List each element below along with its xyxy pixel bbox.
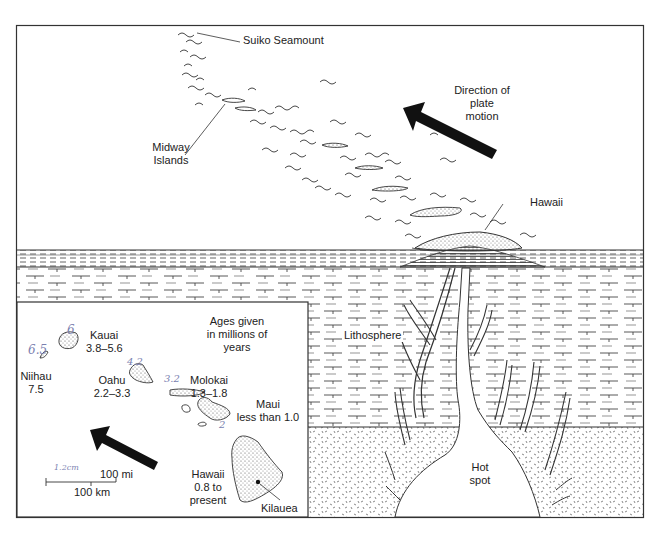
handwritten-scale-note: 1.2cm [54, 463, 79, 472]
hawaiian-hotspot-diagram: Suiko Seamount Midway Islands Direction … [0, 0, 661, 535]
label-kilauea: Kilauea [261, 502, 298, 515]
ocean-layer [17, 250, 643, 267]
kilauea-marker [256, 480, 260, 484]
diagram-canvas [0, 0, 661, 535]
label-hawaii-volcano: Hawaii [530, 196, 563, 209]
label-maui: Maui less than 1.0 [232, 398, 304, 424]
handwritten-maui-age: 2 [219, 419, 225, 430]
label-niihau: Niihau 7.5 [18, 370, 54, 396]
scale-km-label: 100 km [74, 486, 110, 499]
label-molokai: Molokai 1.3–1.8 [184, 374, 234, 400]
label-lithosphere: Lithosphere [343, 329, 403, 342]
handwritten-oahu-age: 4.2 [127, 356, 143, 367]
label-ages-note: Ages given in millions of years [197, 315, 277, 354]
label-kauai: Kauai 3.8–5.6 [86, 329, 123, 355]
label-hawaii-island: Hawaii 0.8 to present [188, 468, 228, 507]
label-direction-of-plate-motion: Direction of plate motion [442, 84, 522, 123]
scale-miles-label: 100 mi [100, 468, 133, 481]
label-suiko-seamount: Suiko Seamount [243, 34, 324, 47]
label-midway-islands: Midway Islands [145, 141, 197, 167]
handwritten-molokai-age: 3.2 [164, 373, 180, 384]
label-oahu: Oahu 2.2–3.3 [90, 374, 134, 400]
handwritten-kauai-age: 6 [67, 323, 75, 337]
handwritten-niihau-age: 6.5 [28, 343, 47, 357]
label-hot-spot: Hot spot [460, 461, 500, 487]
